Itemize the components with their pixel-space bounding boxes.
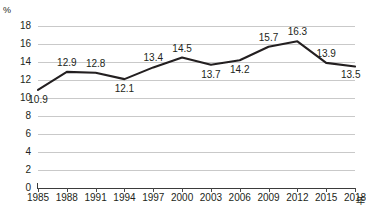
x-axis-tick-label: 1988 <box>56 193 78 203</box>
y-axis-tick-label: 16 <box>0 39 31 49</box>
data-point-label: 16.3 <box>288 27 307 37</box>
y-axis-tick-label: 10 <box>0 93 31 103</box>
data-point-label: 14.5 <box>172 44 191 54</box>
y-axis-tick-label: 8 <box>0 111 31 121</box>
x-axis-tick-label: 1994 <box>113 193 135 203</box>
y-axis-tick-label: 18 <box>0 21 31 31</box>
x-axis-unit-label: 年 <box>356 197 365 206</box>
x-axis-tick-label: 2009 <box>257 193 279 203</box>
data-point-label: 15.7 <box>259 33 278 43</box>
x-axis-tick-label: 2000 <box>171 193 193 203</box>
x-axis-labels: 1985198819911994199720002003200620092012… <box>0 193 364 209</box>
data-point-label: 13.7 <box>201 70 220 80</box>
x-axis-tick-label: 1985 <box>27 193 49 203</box>
x-axis-tick-label: 2003 <box>200 193 222 203</box>
y-axis-tick-label: 4 <box>0 147 31 157</box>
y-axis-labels: 024681012141618 <box>0 0 31 216</box>
x-axis-tick-label: 2012 <box>286 193 308 203</box>
x-axis-tick-label: 2015 <box>315 193 337 203</box>
x-axis-tick-label: 1991 <box>85 193 107 203</box>
data-point-label: 10.9 <box>28 95 47 105</box>
x-axis-tick-label: 2006 <box>229 193 251 203</box>
data-point-label: 13.9 <box>316 49 335 59</box>
plot-area <box>38 26 355 188</box>
y-axis-tick-label: 14 <box>0 57 31 67</box>
data-point-label: 13.5 <box>341 70 360 80</box>
y-axis-tick-label: 2 <box>0 165 31 175</box>
data-point-label: 12.8 <box>86 59 105 69</box>
data-point-label: 12.1 <box>115 84 134 94</box>
y-axis-tick-label: 12 <box>0 75 31 85</box>
x-axis-tick-label: 1997 <box>142 193 164 203</box>
y-axis-tick-label: 6 <box>0 129 31 139</box>
data-point-label: 13.4 <box>144 53 163 63</box>
data-point-label: 12.9 <box>57 58 76 68</box>
data-point-label: 14.2 <box>230 65 249 75</box>
series-line <box>38 26 355 188</box>
